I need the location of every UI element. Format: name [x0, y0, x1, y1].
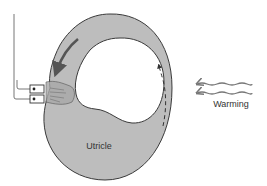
electrode-bottom: [30, 95, 44, 103]
electrode-assembly: [14, 14, 44, 103]
electrode-top-dot: [33, 88, 36, 91]
utricle-label: Utricle: [86, 141, 112, 151]
canal-diagram: Utricle Warming: [0, 0, 267, 186]
electrode-top: [30, 85, 44, 93]
warming-arrows: [197, 83, 252, 94]
warming-label: Warming: [213, 99, 249, 109]
wavy-arrow-bottom: [197, 92, 252, 94]
wire-inner: [17, 80, 30, 89]
electrode-bottom-dot: [33, 98, 36, 101]
wire-outer: [14, 14, 30, 99]
wavy-arrow-top: [197, 83, 252, 85]
